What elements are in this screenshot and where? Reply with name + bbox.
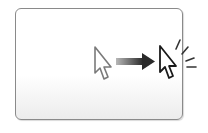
cursor-start-icon [95, 47, 111, 79]
right-arrow-icon [116, 53, 155, 70]
cursor-click-illustration [0, 0, 208, 133]
click-burst-icon [176, 40, 196, 67]
cursor-end-icon [160, 46, 176, 78]
